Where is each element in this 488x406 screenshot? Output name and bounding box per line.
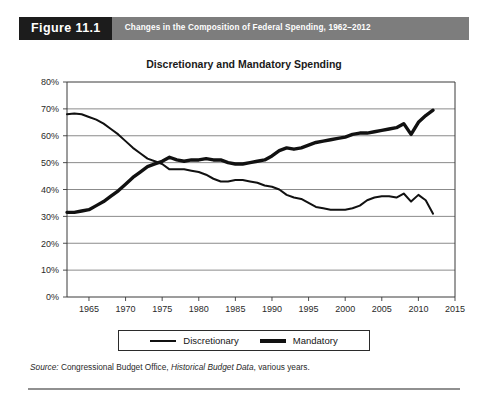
figure-root: Figure 11.1 Changes in the Composition o… <box>0 0 488 406</box>
source-suffix: , various years. <box>254 362 310 372</box>
y-axis-tick-label: 20% <box>41 239 59 249</box>
legend-item-mandatory: Mandatory <box>260 336 338 346</box>
legend-line-swatch-mandatory-icon <box>260 339 286 343</box>
y-axis-tick-label: 70% <box>41 104 59 114</box>
x-axis-tick-label: 1995 <box>299 304 319 314</box>
x-axis-tick-label: 2005 <box>372 304 392 314</box>
figure-banner-title: Changes in the Composition of Federal Sp… <box>125 24 371 32</box>
figure-number-box: Figure 11.1 <box>19 17 112 40</box>
x-axis-tick-label: 1970 <box>116 304 136 314</box>
source-dataset: Historical Budget Data <box>171 362 254 372</box>
x-axis-tick-label: 2015 <box>445 304 465 314</box>
legend-line-swatch-discretionary-icon <box>150 340 176 342</box>
y-axis-tick-label: 0% <box>46 292 59 302</box>
source-publisher: Congressional Budget Office, <box>59 362 171 372</box>
figure-number-label: Figure 11.1 <box>31 22 101 35</box>
y-axis-tick-label: 50% <box>41 158 59 168</box>
x-axis-tick-label: 1965 <box>79 304 99 314</box>
legend-item-discretionary: Discretionary <box>150 336 238 346</box>
figure-banner-title-box: Changes in the Composition of Federal Sp… <box>112 17 469 40</box>
figure-header-banner: Figure 11.1 Changes in the Composition o… <box>19 17 469 40</box>
x-axis-tick-label: 2000 <box>335 304 355 314</box>
y-axis-tick-label: 30% <box>41 212 59 222</box>
y-axis-tick-label: 80% <box>41 77 59 87</box>
source-prefix: Source: <box>30 362 59 372</box>
y-axis-tick-label: 60% <box>41 131 59 141</box>
bottom-divider <box>28 388 460 390</box>
legend-label-discretionary: Discretionary <box>183 336 238 346</box>
chart-card: Discretionary and Mandatory Spending 0%1… <box>19 50 469 350</box>
x-axis-tick-label: 1975 <box>152 304 172 314</box>
line-chart-plot: 0%10%20%30%40%50%60%70%80%19651970197519… <box>19 50 469 350</box>
y-axis-tick-label: 10% <box>41 265 59 275</box>
x-axis-tick-label: 2010 <box>408 304 428 314</box>
x-axis-tick-label: 1990 <box>262 304 282 314</box>
legend-label-mandatory: Mandatory <box>293 336 338 346</box>
chart-legend: Discretionary Mandatory <box>118 330 370 351</box>
x-axis-tick-label: 1985 <box>225 304 245 314</box>
y-axis-tick-label: 40% <box>41 185 59 195</box>
source-note: Source: Congressional Budget Office, His… <box>30 363 460 373</box>
x-axis-tick-label: 1980 <box>189 304 209 314</box>
